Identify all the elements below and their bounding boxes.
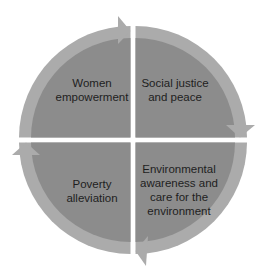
label-poverty-alleviation: Poverty alleviation — [52, 177, 132, 205]
label-social-justice: Social justice and peace — [135, 76, 215, 104]
label-environmental-awareness: Environmental awareness and care for the… — [136, 162, 222, 218]
label-women-empowerment: Women empowerment — [52, 76, 132, 104]
cycle-diagram: Women empowerment Social justice and pea… — [0, 0, 266, 276]
cycle-graphic — [0, 0, 266, 276]
